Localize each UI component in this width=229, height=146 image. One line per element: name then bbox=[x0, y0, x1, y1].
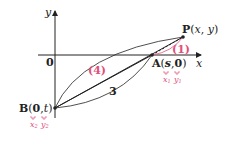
svg-text:y1: y1 bbox=[173, 75, 182, 84]
svg-text:x1: x1 bbox=[163, 75, 171, 84]
point-A-label: A(s,0) bbox=[151, 57, 187, 70]
svg-text:x2: x2 bbox=[30, 120, 38, 129]
y-axis-label: y bbox=[44, 6, 52, 19]
point-B-annotations: x2 y2 bbox=[30, 116, 49, 129]
x-axis-label: x bbox=[196, 57, 203, 70]
segment-label-AB: 3 bbox=[109, 85, 117, 98]
svg-text:y2: y2 bbox=[40, 120, 49, 129]
segment-label-AP: (1) bbox=[172, 43, 190, 56]
origin-label: 0 bbox=[46, 56, 54, 69]
point-B-label: B(0,t) bbox=[19, 102, 52, 115]
point-P-label: P(x, y) bbox=[182, 23, 218, 36]
point-A-annotations: x1 y1 bbox=[163, 71, 182, 84]
point-B bbox=[53, 106, 57, 110]
segment-label-BP: (4) bbox=[88, 64, 106, 77]
diagram-canvas: y x 0 P(x, y) A(s,0) x1 y1 B(0,t) x2 y2 … bbox=[0, 0, 229, 146]
